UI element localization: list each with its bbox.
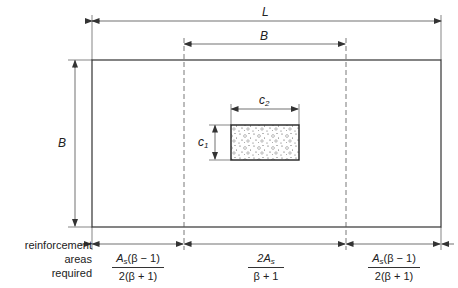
reinforcement-caption: reinforcement areas required [25, 238, 92, 280]
column [231, 125, 299, 160]
side-width-label: B [58, 136, 66, 150]
center-band-area: 2As β + 1 [248, 252, 284, 282]
top-width-label: B [260, 29, 268, 43]
c1-label: c1 [198, 135, 208, 150]
c2-label: c2 [259, 93, 269, 108]
right-band-area: As(β − 1) 2(β + 1) [368, 252, 420, 282]
left-band-area: As(β − 1) 2(β + 1) [112, 252, 164, 282]
length-label: L [262, 5, 269, 19]
